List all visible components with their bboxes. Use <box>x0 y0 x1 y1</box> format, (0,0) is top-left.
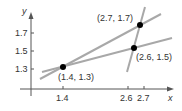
point-2-7-1-7 <box>137 22 143 28</box>
x-tick-label-1-4: 1.4 <box>56 94 69 103</box>
point-label-1-4-1-3: (1.4, 1.3) <box>58 73 94 82</box>
y-tick-label-1-3: 1.3 <box>15 65 28 74</box>
point-1-4-1-3 <box>60 64 66 70</box>
x-axis-label: x <box>168 94 173 103</box>
point-label-2-7-1-7: (2.7, 1.7) <box>97 14 133 23</box>
point-label-2-6-1-5: (2.6, 1.5) <box>136 53 172 62</box>
x-tick-label-2-6: 2.6 <box>120 94 133 103</box>
y-tick-label-1-7: 1.7 <box>15 29 28 38</box>
x-tick-label-2-7: 2.7 <box>137 94 150 103</box>
y-axis-label: y <box>22 7 27 16</box>
point-2-6-1-5 <box>131 45 137 51</box>
y-tick-label-1-5: 1.5 <box>15 47 28 56</box>
y-axis-arrow-icon <box>29 12 34 19</box>
x-axis-arrow-icon <box>167 87 174 92</box>
